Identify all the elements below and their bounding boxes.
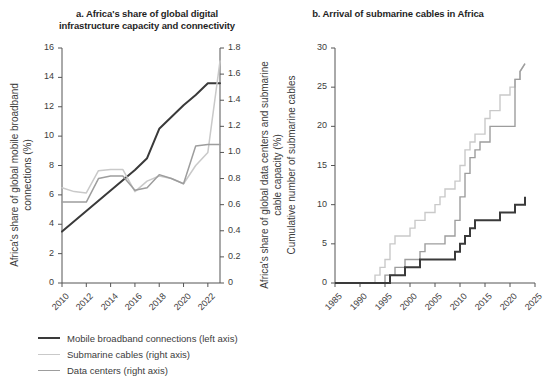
panel-b: b. Arrival of submarine cables in Africa… [280,0,548,391]
legend-line-icon [38,370,60,371]
panel-a-ytick-right: 1.4 [228,94,241,104]
panel-b-plot [280,0,548,391]
legend-line-icon [38,337,60,339]
panel-b-ytick: 5 [295,238,327,248]
panel-a-ytick-right: 0 [228,277,233,287]
panel-a-ytick-left: 4 [20,218,54,228]
panel-a-ytick-right: 0.6 [228,199,241,209]
legend-item: Mobile broadband connections (left axis) [38,330,238,346]
panel-a-ytick-right: 1.8 [228,42,241,52]
legend-item: Data centers (right axis) [38,362,238,378]
panel-a-ytick-right: 0.8 [228,173,241,183]
panel-a-ytick-right: 1.0 [228,146,241,156]
panel-b-ytick: 15 [295,160,327,170]
panel-a-ytick-right: 0.2 [228,251,241,261]
legend-label: Mobile broadband connections (left axis) [67,333,238,344]
panel-a: a. Africa's share of global digital infr… [0,0,280,391]
panel-b-ytick: 20 [295,120,327,130]
figure-root: a. Africa's share of global digital infr… [0,0,548,391]
panel-a-ytick-right: 1.6 [228,68,241,78]
panel-a-ytick-left: 10 [20,130,54,140]
legend-label: Submarine cables (right axis) [67,349,190,360]
panel-a-ytick-right: 0.4 [228,225,241,235]
panel-a-ytick-left: 8 [20,160,54,170]
legend-label: Data centers (right axis) [67,365,168,376]
panel-b-ytick: 30 [295,42,327,52]
panel-a-ytick-right: 1.2 [228,120,241,130]
panel-a-legend: Mobile broadband connections (left axis)… [38,330,238,378]
panel-b-ytick: 25 [295,81,327,91]
panel-b-ytick: 0 [295,277,327,287]
panel-a-ytick-left: 12 [20,101,54,111]
panel-b-ytick: 10 [295,199,327,209]
panel-a-ytick-left: 0 [20,277,54,287]
legend-item: Submarine cables (right axis) [38,346,238,362]
panel-a-ytick-left: 16 [20,42,54,52]
legend-line-icon [38,354,60,355]
panel-a-ytick-left: 14 [20,71,54,81]
panel-a-ytick-left: 2 [20,248,54,258]
panel-a-ytick-left: 6 [20,189,54,199]
